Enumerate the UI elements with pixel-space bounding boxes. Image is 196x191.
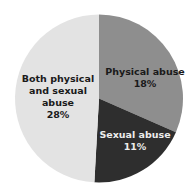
label-both-line3: abuse: [42, 97, 74, 108]
label-both-line1: Both physical: [22, 73, 94, 84]
label-both-value: 28%: [47, 109, 70, 120]
label-sexual-name: Sexual abuse: [99, 129, 170, 140]
pie-chart: Physical abuse 18% Sexual abuse 11% Both…: [0, 0, 196, 191]
label-physical-value: 18%: [134, 78, 157, 89]
label-both-line2: and sexual: [29, 85, 87, 96]
label-physical-name: Physical abuse: [105, 66, 185, 77]
label-sexual-value: 11%: [124, 141, 147, 152]
